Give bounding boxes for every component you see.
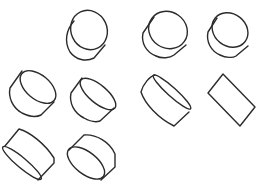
cylinder-9 xyxy=(62,135,115,185)
cylinder-1 xyxy=(64,4,114,60)
cylinder-8 xyxy=(0,129,54,183)
cylinder-6 xyxy=(141,72,194,126)
cylinder-rotation-figure xyxy=(0,0,260,186)
cylinder-3 xyxy=(205,6,255,58)
cylinder-2 xyxy=(141,4,194,58)
cylinder-7 xyxy=(208,74,255,126)
cylinder-5 xyxy=(71,73,121,122)
cylinder-4 xyxy=(10,64,62,116)
